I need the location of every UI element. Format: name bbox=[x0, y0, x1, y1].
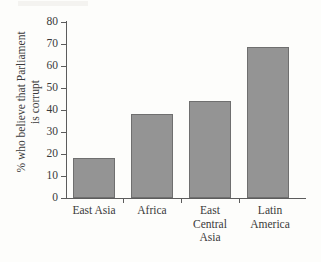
y-axis-tick-40 bbox=[61, 110, 66, 111]
y-axis-tick-80 bbox=[61, 22, 66, 23]
y-axis-tick-50 bbox=[61, 88, 66, 89]
y-axis-line bbox=[66, 21, 67, 199]
y-axis-title-line-1: % who believe that Parliament bbox=[15, 31, 27, 172]
x-axis-label-latin-america: Latin America bbox=[238, 204, 302, 231]
x-axis-tick-3 bbox=[239, 198, 240, 203]
x-axis-label-east-central-asia-line-1: East bbox=[180, 204, 240, 218]
x-axis-label-east-central-asia-line-3: Asia bbox=[180, 231, 240, 245]
y-axis-tick-label-0: 0 bbox=[32, 192, 58, 204]
y-axis-tick-label-20: 20 bbox=[32, 148, 58, 160]
y-axis-tick-label-50: 50 bbox=[32, 82, 58, 94]
y-axis-tick-label-80: 80 bbox=[32, 16, 58, 28]
x-axis-label-east-asia-line-1: East Asia bbox=[62, 204, 126, 218]
x-axis-label-east-central-asia: East Central Asia bbox=[180, 204, 240, 245]
y-axis-tick-60 bbox=[61, 66, 66, 67]
x-axis-label-latin-america-line-2: America bbox=[238, 218, 302, 232]
x-axis-label-east-asia: East Asia bbox=[62, 204, 126, 218]
y-axis-tick-20 bbox=[61, 154, 66, 155]
bar-africa bbox=[131, 114, 173, 198]
y-axis-tick-label-70: 70 bbox=[32, 38, 58, 50]
y-axis-tick-10 bbox=[61, 176, 66, 177]
x-axis-label-africa: Africa bbox=[122, 204, 182, 218]
bar-east-asia bbox=[73, 158, 115, 198]
x-axis-tick-2 bbox=[181, 198, 182, 203]
y-axis-tick-label-40: 40 bbox=[32, 104, 58, 116]
y-axis-tick-label-60: 60 bbox=[32, 60, 58, 72]
x-axis-tick-1 bbox=[123, 198, 124, 203]
x-axis-label-latin-america-line-1: Latin bbox=[238, 204, 302, 218]
y-axis-tick-label-30: 30 bbox=[32, 126, 58, 138]
x-axis-label-africa-line-1: Africa bbox=[122, 204, 182, 218]
x-axis-label-east-central-asia-line-2: Central bbox=[180, 218, 240, 232]
chart-figure: % who believe that Parliament is corrupt… bbox=[0, 0, 321, 262]
y-axis-tick-30 bbox=[61, 132, 66, 133]
x-axis-line bbox=[66, 198, 306, 199]
y-axis-tick-70 bbox=[61, 44, 66, 45]
bar-east-central-asia bbox=[189, 101, 231, 198]
plot-area: % who believe that Parliament is corrupt… bbox=[0, 0, 321, 262]
y-axis-tick-label-10: 10 bbox=[32, 170, 58, 182]
bar-latin-america bbox=[247, 47, 289, 198]
